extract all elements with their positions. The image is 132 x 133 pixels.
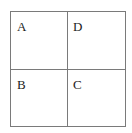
cell-label-bottom-right: C: [73, 78, 82, 91]
cell-label-top-left: A: [17, 20, 26, 33]
cell-label-bottom-left: B: [17, 78, 26, 91]
cell-label-top-right: D: [73, 20, 82, 33]
horizontal-divider: [11, 69, 125, 70]
quadrant-grid: A D B C: [10, 11, 126, 127]
